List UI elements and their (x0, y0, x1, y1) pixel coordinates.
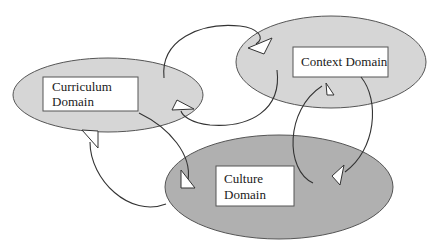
culture-domain-label-line2: Domain (224, 187, 266, 202)
curriculum-domain-label-line1: Curriculum (52, 79, 112, 94)
curriculum-domain-label-line2: Domain (52, 94, 94, 109)
culture-domain-label-line1: Culture (224, 171, 263, 186)
arrow-culture-to-curriculum (90, 142, 166, 207)
context-domain-label: Context Domain (301, 54, 388, 69)
domains-diagram: Curriculum Domain Context Domain Culture… (0, 0, 442, 243)
